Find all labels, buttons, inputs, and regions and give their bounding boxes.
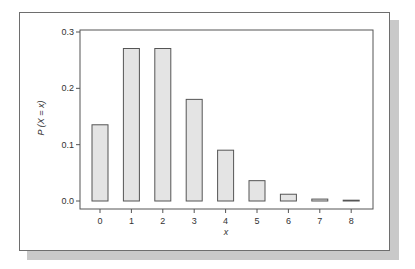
y-axis: 0.00.10.20.3 (61, 27, 80, 206)
bar-x-0 (92, 125, 108, 201)
bar-x-5 (249, 181, 265, 201)
x-axis: 012345678 (97, 209, 353, 226)
bar-x-1 (123, 49, 139, 201)
y-tick-label: 0.0 (61, 196, 74, 206)
x-tick-label: 8 (349, 216, 354, 226)
bar-x-7 (312, 199, 328, 201)
x-tick-label: 4 (223, 216, 228, 226)
x-tick-label: 3 (192, 216, 197, 226)
y-tick-label: 0.2 (61, 83, 74, 93)
bar-x-6 (280, 194, 296, 201)
x-axis-title: x (223, 227, 229, 237)
x-tick-label: 7 (317, 216, 322, 226)
bar-x-2 (155, 49, 171, 201)
x-tick-label: 1 (129, 216, 134, 226)
bar-x-3 (186, 99, 202, 201)
x-tick-label: 2 (160, 216, 165, 226)
bar-x-4 (218, 150, 234, 201)
x-tick-label: 5 (254, 216, 259, 226)
y-axis-title: P (X = x) (36, 101, 46, 136)
bar-chart: 0.00.10.20.3 012345678 x P (X = x) (0, 0, 415, 269)
bar-x-8 (343, 200, 359, 201)
y-tick-label: 0.1 (61, 140, 74, 150)
x-tick-label: 0 (97, 216, 102, 226)
y-tick-label: 0.3 (61, 27, 74, 37)
x-tick-label: 6 (286, 216, 291, 226)
